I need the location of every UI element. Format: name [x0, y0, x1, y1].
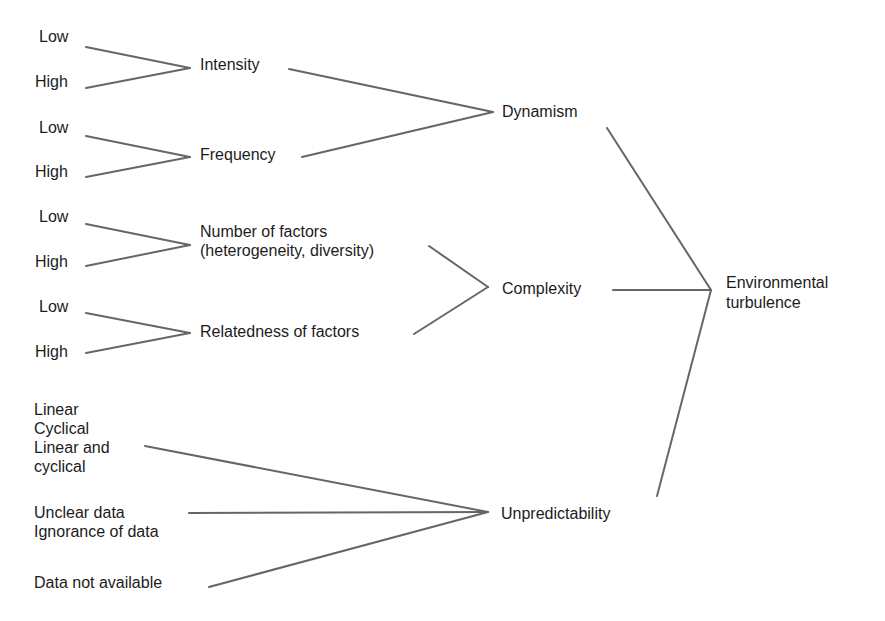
connector-number-complexity — [429, 246, 488, 287]
dimension-complexity: Complexity — [502, 279, 581, 298]
relatedness-level-high: High — [35, 342, 68, 361]
number-level-high: High — [35, 252, 68, 271]
factor-number-of-factors: Number of factors (heterogeneity, divers… — [200, 222, 374, 260]
root-label-line-1: Environmental — [726, 273, 828, 292]
intensity-level-low: Low — [39, 27, 68, 46]
number-level-low: Low — [39, 207, 68, 226]
factor-frequency: Frequency — [200, 145, 276, 164]
connector-relatedness-high — [86, 333, 190, 353]
unpredictability-data-group: Unclear data Ignorance of data — [34, 503, 159, 541]
unpredictability-availability-group: Data not available — [34, 573, 162, 592]
connector-number-high — [86, 245, 190, 266]
connector-intensity-high — [86, 68, 190, 88]
connector-intensity-low — [86, 47, 190, 68]
connector-unpredictability-turbulence — [657, 290, 711, 496]
connector-frequency-dynamism — [302, 112, 493, 157]
root-label-line-2: turbulence — [726, 293, 801, 312]
dimension-dynamism: Dynamism — [502, 102, 578, 121]
environmental-turbulence-diagram: Low High Low High Low High Low High Inte… — [0, 0, 885, 621]
intensity-level-high: High — [35, 72, 68, 91]
frequency-level-low: Low — [39, 118, 68, 137]
factor-intensity: Intensity — [200, 55, 260, 74]
connector-frequency-low — [86, 136, 190, 157]
dimension-unpredictability: Unpredictability — [501, 504, 610, 523]
factor-relatedness: Relatedness of factors — [200, 322, 359, 341]
relatedness-level-low: Low — [39, 297, 68, 316]
connector-availability-unpredictability — [209, 512, 488, 587]
connector-number-low — [86, 224, 190, 245]
unpredictability-pattern-group: Linear Cyclical Linear and cyclical — [34, 400, 110, 476]
connector-intensity-dynamism — [289, 69, 493, 112]
connector-data-unpredictability — [189, 512, 488, 513]
connector-frequency-high — [86, 157, 190, 177]
connector-pattern-unpredictability — [145, 446, 488, 512]
connector-relatedness-complexity — [414, 287, 488, 334]
frequency-level-high: High — [35, 162, 68, 181]
connector-relatedness-low — [86, 313, 190, 333]
connector-dynamism-turbulence — [607, 128, 711, 290]
